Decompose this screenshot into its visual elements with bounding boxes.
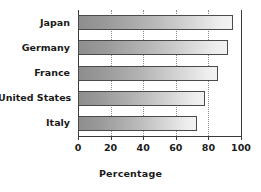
- bar-germany[interactable]: [78, 40, 228, 55]
- x-axis-line: [78, 136, 242, 137]
- bar-italy[interactable]: [78, 116, 197, 131]
- plot-right-border: [241, 10, 242, 136]
- x-tick-0: [78, 136, 79, 140]
- bar-united-states[interactable]: [78, 91, 205, 106]
- x-tick-label-60: 60: [159, 142, 193, 153]
- x-tick-label-40: 40: [126, 142, 160, 153]
- x-tick-100: [241, 136, 242, 140]
- y-axis-label-france: France: [0, 68, 70, 78]
- x-tick-label-0: 0: [61, 142, 95, 153]
- x-tick-80: [208, 136, 209, 140]
- y-axis-label-italy: Italy: [0, 118, 70, 128]
- bar-chart: Japan Germany France United States Italy…: [0, 0, 261, 192]
- y-axis-label-united-states: United States: [0, 93, 70, 103]
- x-tick-60: [176, 136, 177, 140]
- y-axis-label-japan: Japan: [0, 18, 70, 28]
- y-axis-category-labels: Japan Germany France United States Italy: [0, 10, 74, 136]
- plot-area: [78, 10, 242, 136]
- x-tick-40: [143, 136, 144, 140]
- x-tick-label-80: 80: [191, 142, 225, 153]
- bar-japan[interactable]: [78, 15, 233, 30]
- bar-france[interactable]: [78, 66, 218, 81]
- x-tick-label-20: 20: [94, 142, 128, 153]
- x-tick-label-100: 100: [224, 142, 258, 153]
- y-axis-label-germany: Germany: [0, 43, 70, 53]
- x-tick-20: [111, 136, 112, 140]
- x-axis-title: Percentage: [0, 168, 261, 179]
